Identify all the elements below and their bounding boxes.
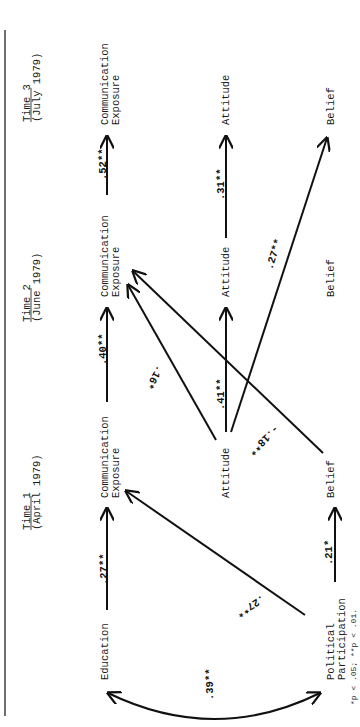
node-political-participation-line2: Participation xyxy=(336,598,348,680)
time1-date: (April 1979) xyxy=(31,454,43,530)
coef-att1-ce2: .16* xyxy=(143,364,166,392)
time-header-3: Time 3 (July 1979) xyxy=(21,53,43,122)
node-comm-exposure-t1-line2: Exposure xyxy=(110,448,122,498)
path-belief1-ce2 xyxy=(133,271,323,453)
time3-date: (July 1979) xyxy=(31,53,43,122)
coef-att1-belief3: .27** xyxy=(263,237,284,271)
coef-ce2-ce3: .52** xyxy=(97,148,109,180)
coef-ce1-ce2: .40** xyxy=(97,333,109,365)
node-comm-exposure-t2-line2: Exposure xyxy=(110,247,122,297)
coef-pp-belief1: .21* xyxy=(323,540,335,565)
coef-belief1-ce2: -.18** xyxy=(246,423,282,458)
coef-education-pp: .39** xyxy=(204,668,216,700)
time2-date: (June 1979) xyxy=(31,253,43,322)
path-diagram: Time 3 (July 1979) Time 2 (June 1979) Ti… xyxy=(0,0,360,727)
coef-education-ce1: .27** xyxy=(98,553,110,585)
path-att1-belief3 xyxy=(231,138,327,432)
node-belief-t1: Belief xyxy=(325,460,337,498)
footnote: *p < .05; **p < .01. xyxy=(349,609,358,705)
node-attitude-t1: Attitude xyxy=(220,448,232,498)
node-attitude-t3: Attitude xyxy=(220,75,232,125)
time-header-1: Time 1 (April 1979) xyxy=(21,454,43,530)
node-comm-exposure-t3-line2: Exposure xyxy=(110,75,122,125)
coef-att2-att3: .31** xyxy=(215,168,227,200)
path-pp-ce1 xyxy=(126,491,305,615)
node-belief-t3: Belief xyxy=(325,87,337,125)
node-attitude-t2: Attitude xyxy=(220,247,232,297)
coef-att1-att2: .41** xyxy=(215,378,227,410)
coef-pp-ce1: .27** xyxy=(234,592,267,619)
node-education: Education xyxy=(99,623,111,680)
time-header-2: Time 2 (June 1979) xyxy=(21,253,43,322)
node-belief-t2: Belief xyxy=(325,259,337,297)
